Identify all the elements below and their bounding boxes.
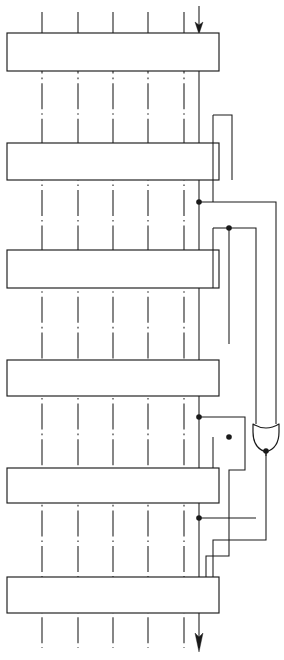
tap-junction-a [196,199,202,205]
tap-junction-f [263,448,269,454]
feedback-routing [199,115,276,577]
feedback-route-5 [213,452,266,577]
serial-data-output [195,613,203,652]
register-stage-4 [7,360,219,396]
tap-junction-c [196,414,202,420]
tap-junction-d [226,434,232,440]
register-stage-3 [7,250,219,288]
tap-junction-b [226,225,232,231]
schematic-diagram [0,0,284,660]
serial-data-input [195,6,203,34]
register-stage-2 [7,143,219,180]
feedback-route-2 [229,228,256,424]
register-stage-5 [7,468,219,503]
register-stage-1 [7,33,219,71]
tap-junction-e [196,515,202,521]
feedback-route-lower-a [206,518,229,577]
or-gate-body-icon [253,424,279,452]
bitline-group [42,12,184,648]
schematic-canvas [0,0,284,660]
register-stage-6 [7,577,219,613]
